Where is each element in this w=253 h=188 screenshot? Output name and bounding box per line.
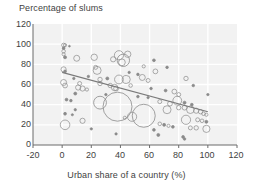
data-bubble xyxy=(153,59,156,62)
data-bubble xyxy=(74,109,76,111)
x-axis-title: Urban share of a country (%) xyxy=(0,170,253,180)
data-bubble xyxy=(163,123,166,126)
data-bubble xyxy=(74,92,77,95)
data-bubble xyxy=(115,133,117,135)
bubble-chart: Percentage of slums 120 100 80 60 40 20 … xyxy=(0,0,253,188)
data-bubble xyxy=(128,71,130,73)
plot-area xyxy=(0,0,253,188)
data-bubble xyxy=(183,138,186,141)
data-bubble xyxy=(157,133,160,136)
data-bubble xyxy=(87,75,89,77)
data-bubble xyxy=(64,56,67,59)
data-bubble xyxy=(106,77,109,80)
data-bubble xyxy=(69,45,71,47)
data-bubble xyxy=(192,84,195,87)
data-bubble xyxy=(150,87,153,90)
data-bubble xyxy=(183,101,186,104)
data-bubble xyxy=(137,73,140,76)
data-bubble xyxy=(64,112,67,115)
data-bubble xyxy=(207,93,209,95)
data-bubble xyxy=(171,125,174,128)
data-bubble xyxy=(147,96,149,98)
data-bubble xyxy=(166,66,169,69)
data-bubble xyxy=(71,114,73,116)
data-bubble xyxy=(105,93,107,95)
data-bubble xyxy=(205,120,208,123)
data-bubble xyxy=(73,77,75,79)
data-bubble xyxy=(137,95,140,98)
data-bubble xyxy=(153,128,156,131)
data-bubble xyxy=(90,128,92,130)
data-bubble xyxy=(65,98,68,101)
data-bubble xyxy=(164,89,167,92)
data-bubble xyxy=(70,99,73,102)
